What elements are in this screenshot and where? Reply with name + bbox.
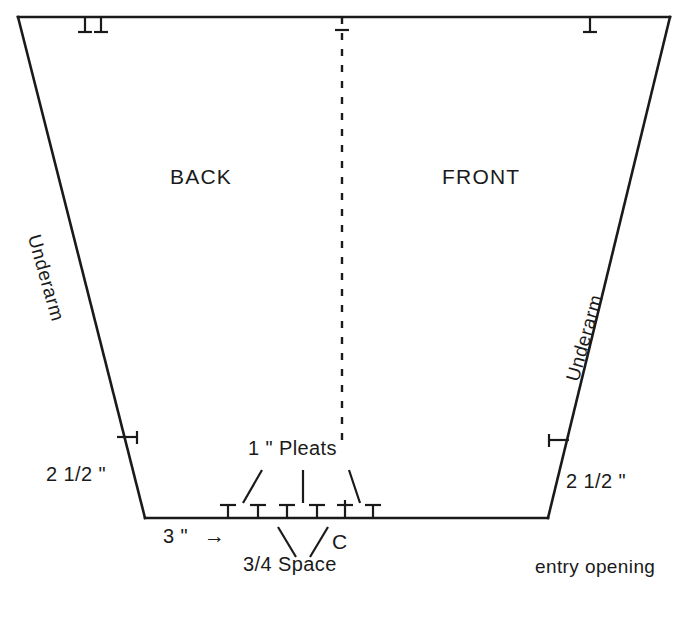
pleat-leader-line: [243, 470, 262, 503]
pleat-tick-mark: [309, 505, 325, 518]
pattern-diagram: BACK FRONT Underarm Underarm 2 1/2 " 2 1…: [0, 0, 700, 621]
pleat-tick-mark: [279, 505, 295, 518]
center-mark-label: C: [332, 530, 348, 554]
pleat-tick-mark: [365, 505, 381, 518]
pleat-tick-mark: [220, 505, 236, 518]
right-arrow-icon: →: [204, 524, 225, 548]
measurement-label-pleat-space: 3/4 Space: [243, 553, 337, 576]
annotation-entry-opening: entry opening: [535, 556, 655, 578]
measurement-label-left-hem: 2 1/2 ": [46, 463, 106, 486]
top-tick-mark: [94, 17, 108, 32]
measurement-label-pleat-width: 1 " Pleats: [248, 437, 337, 460]
panel-label-back: BACK: [170, 165, 232, 189]
top-tick-mark: [78, 17, 92, 32]
pleat-leader-line: [349, 470, 360, 503]
panel-label-front: FRONT: [442, 165, 520, 189]
measurement-label-bottom-offset: 3 ": [163, 525, 188, 548]
pleat-tick-mark: [250, 505, 266, 518]
pleat-tick-mark: [337, 500, 353, 518]
measurement-label-right-hem: 2 1/2 ": [566, 470, 626, 493]
top-tick-mark: [583, 17, 597, 32]
underarm-right-edge: [548, 17, 670, 518]
